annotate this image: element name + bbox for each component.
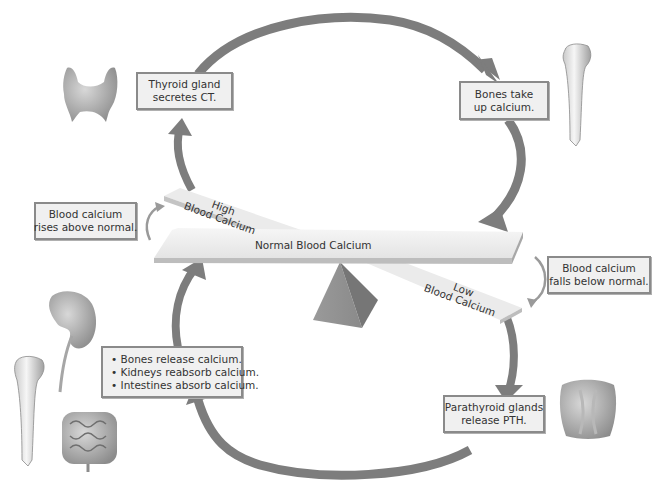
bones-take-box: Bones take up calcium. <box>459 81 549 120</box>
falls-line2: falls below normal. <box>549 275 648 288</box>
arrow-rises <box>147 202 165 240</box>
arrow-low-to-parathyroid <box>495 318 523 402</box>
effects-item: Kidneys reabsorb calcium. <box>111 366 259 379</box>
thyroid-line2: secretes CT. <box>153 91 216 104</box>
arrow-bones-to-normal <box>478 120 521 232</box>
rises-line2: rises above normal. <box>34 221 138 234</box>
parathyroid-box: Parathyroid glands release PTH. <box>443 395 545 433</box>
intestines-icon <box>62 412 117 472</box>
bones-take-line2: up calcium. <box>474 101 535 114</box>
arrow-effects-to-normal <box>176 258 206 348</box>
kidney-icon <box>49 291 96 392</box>
thyroid-line1: Thyroid gland <box>148 78 220 91</box>
falls-line1: Blood calcium <box>562 262 636 275</box>
effects-item: Bones release calcium. <box>111 353 242 366</box>
calcium-homeostasis-diagram: Normal Blood Calcium High Blood Calcium … <box>0 0 661 483</box>
bones-take-line1: Bones take <box>475 88 533 101</box>
rises-box: Blood calcium rises above normal. <box>34 202 137 240</box>
arrow-falls <box>527 257 545 308</box>
arrow-high-to-thyroid <box>168 118 192 190</box>
parathyroid-line1: Parathyroid glands <box>445 401 543 414</box>
rises-line1: Blood calcium <box>49 208 123 221</box>
fulcrum <box>313 262 378 328</box>
thyroid-box: Thyroid gland secretes CT. <box>136 72 233 110</box>
effects-item: Intestines absorb calcium. <box>111 379 259 392</box>
falls-box: Blood calcium falls below normal. <box>547 256 651 294</box>
normal-calcium-label: Normal Blood Calcium <box>255 240 372 251</box>
arrow-thyroid-to-bones <box>198 18 500 84</box>
bone-icon-bottom <box>15 356 44 466</box>
effects-box: Bones release calcium. Kidneys reabsorb … <box>101 346 243 398</box>
thyroid-gland-icon <box>63 68 117 122</box>
parathyroid-glands-icon <box>560 380 616 439</box>
parathyroid-line2: release PTH. <box>461 414 526 427</box>
bone-icon-top <box>563 44 591 146</box>
